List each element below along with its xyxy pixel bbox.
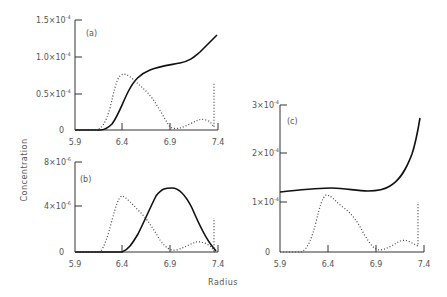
panel-label-b: (b) xyxy=(80,175,91,184)
a-xtick-1: 6.4 xyxy=(116,138,129,147)
b-xtick-3: 7.4 xyxy=(212,260,225,269)
panel-label-c: (c) xyxy=(287,117,298,126)
c-dotted-curve xyxy=(280,195,418,252)
panel-c: (c) 0 1×10-4 2×10-4 3×10-4 5.9 6.4 6.9 7… xyxy=(252,99,430,269)
b-xtick-1: 6.4 xyxy=(116,260,129,269)
panel-b: (b) 0 4×10-6 8×10-6 5.9 6.4 6.9 7.4 xyxy=(44,156,224,269)
b-dotted-curve xyxy=(75,196,214,252)
b-xtick-2: 6.9 xyxy=(164,260,177,269)
c-ytick-2: 2×10-4 xyxy=(252,147,279,158)
y-axis-title: Concentration xyxy=(20,138,29,201)
a-xtick-2: 6.9 xyxy=(164,138,177,147)
c-xtick-3: 7.4 xyxy=(418,260,431,269)
b-solid-curve xyxy=(75,188,216,252)
a-xtick-0: 5.9 xyxy=(69,138,82,147)
b-ytick-0: 0 xyxy=(59,248,64,257)
a-ytick-3: 1.5×10-4 xyxy=(36,14,71,25)
a-ytick-1: 0.5×10-4 xyxy=(36,88,71,99)
c-ytick-0: 0 xyxy=(265,248,270,257)
a-ytick-0: 0 xyxy=(59,126,64,135)
a-dotted-curve xyxy=(75,74,214,130)
panel-a: (a) 0 0.5×10-4 1.0×10-4 1.5×10-4 5.9 6.4… xyxy=(36,14,224,147)
c-xtick-0: 5.9 xyxy=(274,260,287,269)
a-xtick-3: 7.4 xyxy=(212,138,225,147)
a-solid-curve xyxy=(75,35,217,130)
c-xtick-1: 6.4 xyxy=(322,260,335,269)
panel-label-a: (a) xyxy=(86,29,97,38)
b-ytick-1: 4×10-6 xyxy=(44,200,71,211)
x-axis-title: Radius xyxy=(208,278,238,287)
c-xtick-2: 6.9 xyxy=(370,260,383,269)
b-xtick-0: 5.9 xyxy=(69,260,82,269)
b-ytick-2: 8×10-6 xyxy=(44,156,71,167)
c-ytick-1: 1×10-4 xyxy=(252,196,279,207)
a-ytick-2: 1.0×10-4 xyxy=(36,51,71,62)
c-ytick-3: 3×10-4 xyxy=(252,99,279,110)
chart-figure: Concentration Radius (a) 0 0.5×10-4 1.0×… xyxy=(0,0,447,297)
c-solid-curve xyxy=(280,118,420,192)
